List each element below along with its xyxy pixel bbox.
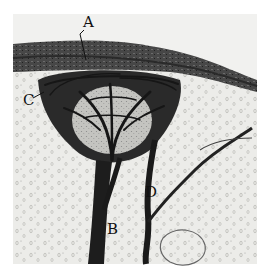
glomerulus-illustration: A B C D — [0, 0, 267, 277]
label-d: D — [145, 185, 157, 200]
label-b: B — [107, 222, 118, 237]
label-c: C — [23, 93, 34, 108]
illustration-drawing — [0, 0, 267, 277]
label-a: A — [83, 15, 94, 30]
